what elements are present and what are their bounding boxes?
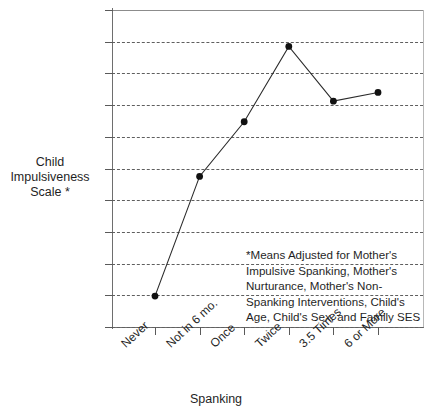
annotation-line: Impulsive Spanking, Mother's xyxy=(246,263,430,279)
x-axis-title: Spanking xyxy=(0,392,432,406)
data-series xyxy=(0,0,432,418)
chart-annotation-footnote: *Means Adjusted for Mother'sImpulsive Sp… xyxy=(246,247,430,325)
data-point-marker xyxy=(241,118,248,125)
chart-figure: Child Impulsiveness Scale * 605856545250… xyxy=(0,0,432,418)
annotation-line: Spanking Interventions, Child's xyxy=(246,294,430,310)
annotation-line: Nurturance, Mother's Non- xyxy=(246,278,430,294)
data-point-marker xyxy=(330,98,337,105)
data-point-marker xyxy=(375,89,382,96)
data-point-marker xyxy=(285,43,292,50)
annotation-line: *Means Adjusted for Mother's xyxy=(246,247,430,263)
data-point-marker xyxy=(196,173,203,180)
annotation-line: Age, Child's Sex, and Family SES xyxy=(246,309,430,325)
data-point-marker xyxy=(152,293,159,300)
